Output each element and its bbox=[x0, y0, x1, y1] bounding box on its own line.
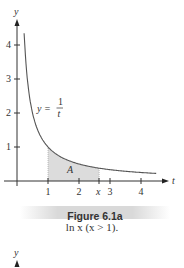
y-axis-label: y bbox=[13, 6, 19, 17]
area-label: A bbox=[66, 164, 74, 175]
figure-caption: ln x (x > 1). bbox=[0, 221, 184, 233]
x-tick-label: 4 bbox=[139, 186, 144, 197]
x-tick-label: 3 bbox=[108, 186, 113, 197]
figure-title-bar: Figure 6.1a bbox=[20, 206, 170, 219]
y-ticks: 1 2 3 4 bbox=[6, 39, 20, 152]
next-figure-y-label: y bbox=[13, 247, 19, 258]
x-axis-arrow-icon bbox=[162, 179, 169, 184]
x-axis-label: t bbox=[172, 175, 175, 186]
x-tick-label: 2 bbox=[77, 186, 82, 197]
y-tick-label: 3 bbox=[6, 73, 11, 84]
x-tick-label: 1 bbox=[46, 186, 51, 197]
x-tick-label-x: x bbox=[95, 186, 101, 197]
y-tick-label: 1 bbox=[6, 141, 11, 152]
svg-text:t: t bbox=[58, 108, 61, 119]
y-tick-label: 4 bbox=[6, 39, 11, 50]
y-tick-label: 2 bbox=[6, 107, 11, 118]
y-axis-arrow-icon bbox=[15, 19, 20, 26]
curve-equation-label: y = 1 t bbox=[36, 96, 63, 119]
shaded-area-a bbox=[48, 147, 99, 181]
svg-text:y =: y = bbox=[36, 103, 51, 114]
svg-text:1: 1 bbox=[58, 96, 63, 107]
next-figure-y-arrow-icon bbox=[15, 260, 20, 267]
